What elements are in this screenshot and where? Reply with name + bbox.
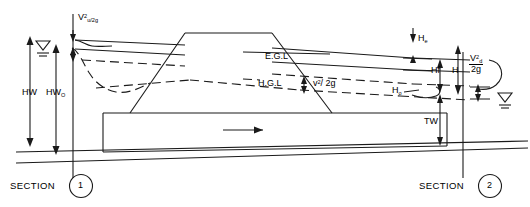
ho-leader-line: [404, 90, 419, 92]
velocity-head-downstream-dimension: [470, 84, 490, 102]
friction-loss-label: Hf: [431, 66, 440, 75]
water-surface-line-upstream: [75, 49, 185, 55]
outlet-head-curve: [412, 87, 440, 98]
embankment-downstream-slope: [272, 33, 332, 113]
velocity-head-upstream-label: V2u/2g: [78, 13, 98, 23]
flow-direction-arrow: [223, 127, 263, 134]
total-head-label: H: [452, 66, 459, 75]
section-1-number: 1: [78, 181, 83, 190]
section-2-number: 2: [487, 181, 492, 190]
section-1-text: SECTION: [10, 181, 55, 191]
entrance-loss-label: He: [418, 34, 428, 44]
water-surface-symbol-downstream: [498, 93, 512, 108]
culvert-profile-drawing: [0, 0, 530, 207]
egl-upstream-segment: [75, 40, 185, 45]
inlet-drawdown-curve: [72, 48, 150, 92]
barrel-water-surface-dashed: [96, 80, 470, 100]
section-2-text: SECTION: [419, 181, 464, 191]
outlet-head-label: Ho: [392, 86, 402, 96]
velocity-head-barrel-label: v2/ 2g: [313, 79, 336, 88]
water-surface-symbol-upstream: [36, 41, 50, 56]
energy-grade-line-label: E.G.L: [265, 52, 288, 61]
water-surface-line-downstream: [272, 62, 413, 70]
diagram-canvas: V2u/2g HW HWO E.G.L H.G.L v2/ 2g He Hf H…: [0, 0, 530, 207]
headwater-outlet-label: HWO: [46, 88, 65, 98]
headwater-label: HW: [22, 88, 37, 97]
hydraulic-grade-line-label: H.G.L: [258, 79, 282, 88]
tailwater-label: TW: [424, 117, 438, 126]
hwo-dimension-arrow: [53, 44, 60, 155]
velocity-head-downstream-label: V2d 2g: [469, 54, 483, 74]
